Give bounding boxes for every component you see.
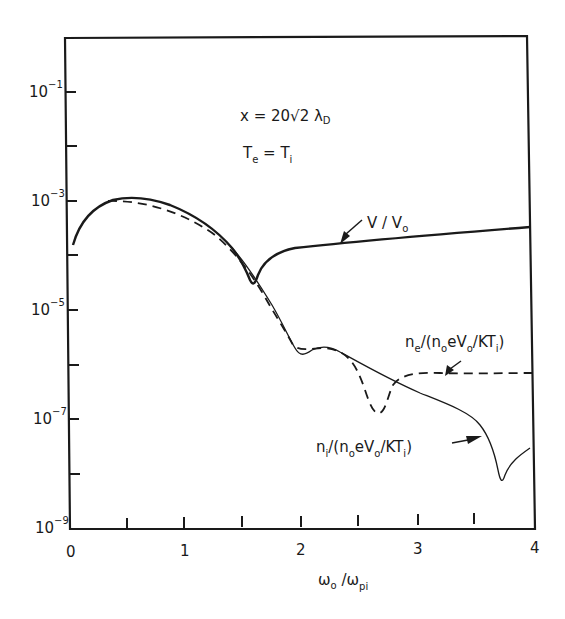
annotation-temperature: Te = Ti bbox=[242, 144, 292, 165]
label-ne-normalized: ne/(noeVo/KTi) bbox=[405, 333, 504, 354]
y-tick-labels: 10−1 10−3 10−5 10−7 10−9 bbox=[29, 79, 69, 537]
x-axis-label: ωo /ωpi bbox=[318, 571, 368, 592]
chart: 10−1 10−3 10−5 10−7 10−9 0 1 2 3 4 ωo /ω… bbox=[0, 0, 565, 619]
arrow-ni bbox=[452, 436, 482, 444]
xtick-label-0: 0 bbox=[66, 543, 76, 561]
xtick-label-3: 3 bbox=[413, 540, 423, 558]
xtick-label-1: 1 bbox=[180, 542, 190, 560]
x-tick-labels: 0 1 2 3 4 bbox=[66, 539, 540, 561]
ytick-label-1e-9: 10−9 bbox=[35, 515, 69, 537]
ytick-label-1e-5: 10−5 bbox=[31, 297, 65, 319]
ytick-label-1e-7: 10−7 bbox=[33, 406, 67, 428]
annotation-distance: x = 20√2 λD bbox=[240, 107, 331, 126]
label-v-over-v0: V / Vo bbox=[367, 214, 408, 234]
series-v-over-v0 bbox=[73, 198, 530, 283]
x-axis-ticks bbox=[127, 513, 474, 529]
xtick-label-4: 4 bbox=[530, 539, 540, 557]
xtick-label-2: 2 bbox=[296, 541, 306, 559]
ytick-label-1e-1: 10−1 bbox=[29, 79, 63, 101]
label-ni-normalized: ni/(noeVo/KTi) bbox=[316, 438, 412, 459]
ytick-label-1e-3: 10−3 bbox=[31, 188, 65, 210]
